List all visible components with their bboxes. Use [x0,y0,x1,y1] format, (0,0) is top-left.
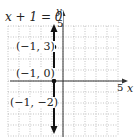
line-arrow-down-icon [51,126,58,134]
y-tick-label: 5 [57,19,63,29]
point-label-neg1-0: (−1, 0) [16,68,55,79]
point-label-neg1-neg2: (−1, −2) [10,97,58,108]
x-tick-label: 5 [117,83,123,93]
y-axis-label: y [56,6,62,16]
equation-label: x + 1 = 0 [4,11,63,23]
x-axis-label: x [127,83,133,94]
point-label-neg1-3: (−1, 3) [16,41,55,52]
